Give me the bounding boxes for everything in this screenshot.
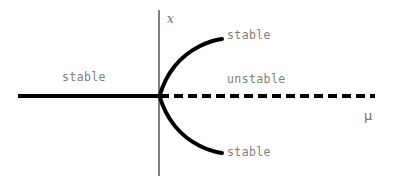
axis-label-mu: μ: [364, 109, 372, 122]
label-stable-top: stable: [227, 30, 271, 42]
bifurcation-diagram-figure: stable stable unstable stable x μ: [0, 0, 393, 182]
label-stable-bottom: stable: [227, 147, 271, 159]
label-stable-left: stable: [62, 72, 106, 84]
lower-stable-branch-curve: [160, 96, 223, 153]
bifurcation-plot-canvas: [0, 0, 393, 182]
label-unstable: unstable: [227, 74, 286, 86]
axis-label-x: x: [167, 13, 174, 25]
upper-stable-branch-curve: [160, 39, 223, 96]
